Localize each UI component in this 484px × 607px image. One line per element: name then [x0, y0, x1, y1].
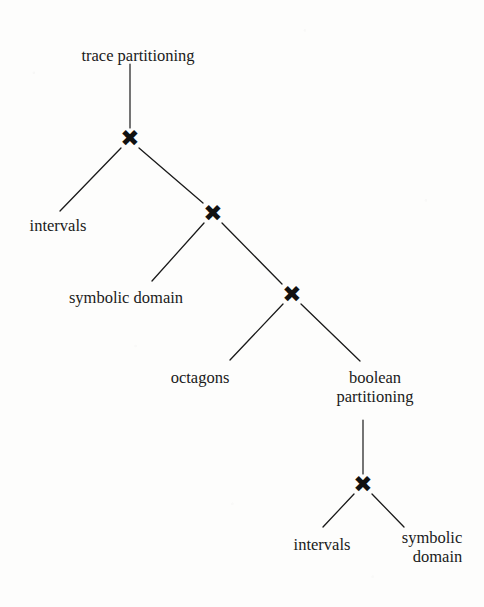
edge-x4-to-intervals-2	[323, 494, 354, 527]
label-octagons: octagons	[171, 368, 230, 387]
edge-x3-to-octagons	[230, 304, 283, 360]
label-intervals-1: intervals	[30, 216, 87, 235]
edge-x1-to-intervals-1	[60, 148, 121, 211]
edge-x2-to-x3	[222, 223, 282, 284]
label-symbolic-1: symbolic domain	[69, 288, 183, 307]
edge-x2-to-symbolic-1	[152, 223, 204, 281]
operator-node-x1: ✖	[120, 127, 139, 150]
label-root: trace partitioning	[81, 46, 194, 65]
operator-node-x3: ✖	[282, 283, 301, 306]
diagram-canvas: trace partitioning✖intervals✖symbolic do…	[0, 0, 484, 607]
edge-x3-to-boolean	[301, 304, 360, 361]
label-intervals-2: intervals	[294, 535, 351, 554]
label-boolean: boolean partitioning	[337, 368, 414, 407]
operator-node-x2: ✖	[203, 202, 222, 225]
edge-x4-to-symbolic-2	[372, 494, 404, 527]
edge-x1-to-x2	[139, 148, 203, 203]
operator-node-x4: ✖	[353, 473, 372, 496]
label-symbolic-2: symbolic domain	[402, 528, 463, 567]
